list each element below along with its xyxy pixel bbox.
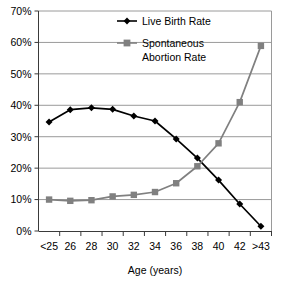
x-axis-tick-label: 38 — [192, 240, 204, 252]
y-axis-tick-label: 10% — [10, 193, 31, 205]
legend-entry-live-birth-rate: Live Birth Rate — [117, 15, 211, 27]
data-point-square-icon — [109, 193, 115, 199]
x-axis-tick-label: 26 — [64, 240, 76, 252]
chart-legend: Live Birth Rate Spontaneous Abortion Rat… — [117, 15, 211, 63]
y-axis-tick-label: 40% — [10, 99, 31, 111]
legend-marker-square-icon — [124, 40, 131, 47]
data-point-square-icon — [46, 196, 52, 202]
data-point-square-icon — [67, 198, 73, 204]
x-axis-title: Age (years) — [128, 264, 182, 276]
x-axis-tick-label: 30 — [107, 240, 119, 252]
x-axis-tick-label: 42 — [234, 240, 246, 252]
legend-label-spontaneous-abortion-rate: Spontaneous — [142, 37, 204, 49]
legend-marker-diamond-icon — [124, 17, 131, 24]
legend-label-live-birth-rate: Live Birth Rate — [142, 15, 211, 27]
series-live-birth-rate — [46, 104, 265, 229]
data-point-diamond-icon — [130, 112, 137, 119]
y-axis-tick-label: 30% — [10, 131, 31, 143]
line-chart: 0%10%20%30%40%50%60%70% <252628303234363… — [0, 0, 281, 283]
data-point-square-icon — [194, 163, 200, 169]
data-point-diamond-icon — [46, 118, 53, 125]
x-axis-tick-label: 32 — [128, 240, 140, 252]
x-axis-tick-label: >43 — [252, 240, 270, 252]
data-point-square-icon — [152, 189, 158, 195]
x-axis-tick-label: <25 — [40, 240, 58, 252]
x-axis-tick-label: 34 — [149, 240, 161, 252]
y-axis-ticks — [35, 11, 39, 231]
legend-label-spontaneous-abortion-rate-line2: Abortion Rate — [142, 51, 206, 63]
chart-container: 0%10%20%30%40%50%60%70% <252628303234363… — [0, 0, 281, 283]
series-line — [49, 108, 261, 226]
y-axis-tick-label: 0% — [16, 225, 31, 237]
data-point-diamond-icon — [109, 106, 116, 113]
data-point-diamond-icon — [67, 106, 74, 113]
y-axis-tick-label: 50% — [10, 68, 31, 80]
data-point-square-icon — [215, 140, 221, 146]
data-point-square-icon — [131, 192, 137, 198]
data-point-square-icon — [173, 180, 179, 186]
data-point-square-icon — [237, 99, 243, 105]
y-axis-tick-label: 20% — [10, 162, 31, 174]
data-point-square-icon — [88, 197, 94, 203]
y-axis-tick-label: 70% — [10, 5, 31, 17]
x-axis-tick-labels: <25262830323436384042>43 — [40, 240, 270, 252]
x-axis-tick-label: 28 — [86, 240, 98, 252]
x-axis-tick-label: 36 — [170, 240, 182, 252]
x-axis-tick-label: 40 — [213, 240, 225, 252]
y-axis-tick-labels: 0%10%20%30%40%50%60%70% — [10, 5, 31, 237]
data-point-square-icon — [258, 43, 264, 49]
y-axis-tick-label: 60% — [10, 36, 31, 48]
legend-entry-spontaneous-abortion-rate: Spontaneous Abortion Rate — [117, 37, 206, 63]
